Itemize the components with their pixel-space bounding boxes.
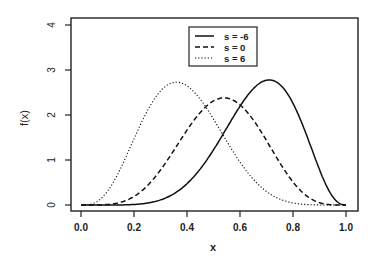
legend-label: s = 6 [224, 53, 245, 64]
x-tick-label: 1.0 [339, 222, 353, 233]
x-axis: 0.00.20.40.60.81.0 [74, 211, 353, 233]
x-tick-label: 0.4 [180, 222, 194, 233]
curve-solid [81, 80, 346, 205]
legend-label: s = -6 [224, 31, 249, 42]
x-tick-label: 0.8 [286, 222, 300, 233]
y-tick-label: 2 [46, 112, 57, 118]
y-tick-label: 4 [46, 22, 57, 28]
y-tick-label: 1 [46, 157, 57, 163]
legend-label: s = 0 [224, 42, 245, 53]
y-tick-label: 3 [46, 67, 57, 73]
y-axis: 01234 [46, 22, 71, 208]
x-tick-label: 0.2 [127, 222, 141, 233]
y-axis-label: f(x) [18, 110, 30, 126]
y-tick-label: 0 [46, 202, 57, 208]
x-tick-label: 0.0 [74, 222, 88, 233]
curve-dashed [81, 98, 346, 205]
density-chart: 01234 0.00.20.40.60.81.0 f(x) x s = -6s … [0, 0, 377, 264]
x-axis-label: x [210, 241, 217, 253]
curves [81, 80, 346, 205]
x-tick-label: 0.6 [233, 222, 247, 233]
legend: s = -6s = 0s = 6 [189, 27, 257, 66]
